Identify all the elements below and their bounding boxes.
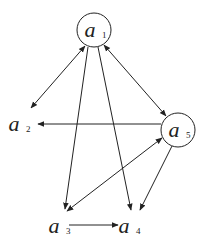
node-a2: a2: [9, 111, 31, 136]
edge-a1-a3: [65, 47, 88, 209]
edge-a1-a2: [31, 46, 85, 108]
node-label: a: [119, 213, 130, 238]
node-subscript: 4: [136, 226, 141, 236]
node-label: a: [49, 213, 60, 238]
node-subscript: 1: [102, 30, 107, 40]
edge-a5-a3: [67, 138, 162, 211]
node-label: a: [85, 17, 96, 42]
node-label: a: [9, 111, 20, 136]
node-a4: a4: [119, 213, 142, 238]
node-a5: a5: [161, 113, 195, 147]
node-subscript: 2: [26, 124, 31, 134]
node-label: a: [169, 117, 180, 142]
directed-graph: a1a2a3a4a5: [0, 0, 202, 247]
node-a3: a3: [49, 213, 72, 238]
node-subscript: 3: [66, 226, 71, 236]
edge-a1-a5: [104, 45, 166, 116]
edge-a5-a4: [140, 146, 172, 210]
node-a1: a1: [77, 13, 111, 47]
edge-a1-a4: [98, 47, 131, 210]
node-subscript: 5: [186, 130, 191, 140]
